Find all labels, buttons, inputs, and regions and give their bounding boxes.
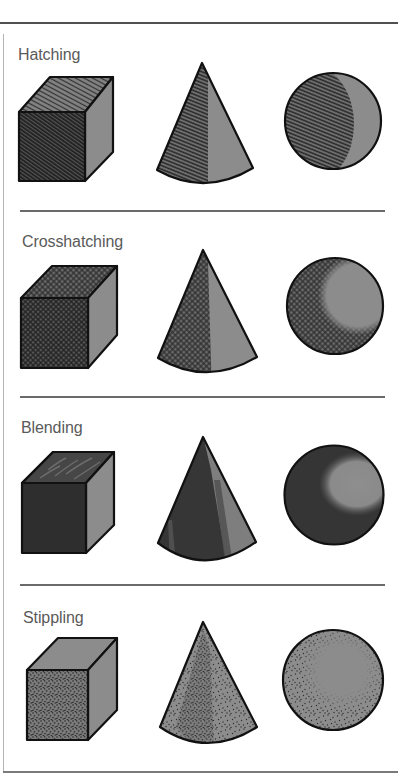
hatching-sphere: [270, 66, 381, 182]
blending-cone: [158, 437, 256, 585]
shapes-illustration: [0, 0, 398, 783]
shading-techniques-figure: Hatching Crosshatching Blending Stipplin…: [0, 0, 398, 783]
hatching-cube: [19, 77, 113, 181]
stippling-sphere: [283, 628, 384, 730]
crosshatching-sphere: [287, 255, 398, 354]
hatching-cone: [150, 63, 253, 205]
blending-cube: [22, 452, 114, 553]
crosshatching-cube: [21, 266, 117, 368]
stippling-cube: [27, 638, 117, 740]
crosshatching-cone: [150, 250, 257, 395]
blending-sphere: [285, 446, 396, 545]
stippling-cone: [160, 622, 257, 752]
